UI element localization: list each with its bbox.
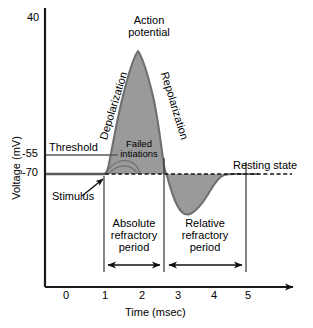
y-axis-label: Voltage (mV) — [11, 128, 23, 208]
x-tick-2: 2 — [139, 290, 145, 302]
figure-container: 40 -55 -70 Voltage (mV) 0 1 2 3 4 5 Time… — [0, 0, 313, 328]
y-tick-minus55: -55 — [22, 148, 38, 160]
x-tick-4: 4 — [211, 290, 217, 302]
x-tick-5: 5 — [245, 290, 251, 302]
stimulus-label: Stimulus — [52, 191, 94, 203]
relative-refractory-label-line3: period — [175, 242, 235, 254]
hyperpolarization-fill — [167, 174, 235, 215]
x-tick-1: 1 — [102, 290, 108, 302]
x-tick-3: 3 — [175, 290, 181, 302]
resting-state-label: Resting state — [233, 160, 297, 172]
threshold-label: Threshold — [49, 142, 98, 154]
x-tick-0: 0 — [63, 290, 69, 302]
absolute-refractory-label-line3: period — [104, 242, 164, 254]
x-axis-label: Time (msec) — [125, 307, 186, 319]
y-tick-minus70: -70 — [22, 167, 38, 179]
y-tick-40: 40 — [27, 12, 39, 24]
failed-initiations-label-line2: intiations — [108, 149, 170, 159]
action-potential-label-line2: potential — [118, 27, 180, 39]
